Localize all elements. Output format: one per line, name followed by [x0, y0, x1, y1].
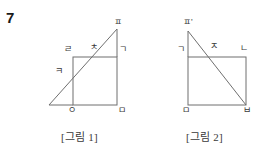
figure-1-caption: [그림 1]: [61, 128, 98, 144]
figure-1-vertex-label-ieung: ㅇ: [68, 106, 76, 115]
figure-1-vertex-label-rieul: ㄹ: [64, 45, 72, 54]
question-figure-page: 7 ㅍ ㄹ ㅊ ㄱ ㅋ ㅇ ㅁ ㅍ' ㄱ ㅈ ㄴ ㅁ ㅂ [그림 1] [그림 …: [0, 0, 269, 153]
figure-2-vertex-label-pieup-prime: ㅍ': [183, 18, 193, 27]
figure-1-square: [73, 57, 117, 105]
figure-2-vertex-label-mieum: ㅁ: [182, 106, 190, 115]
figure-2-vertex-label-bieup: ㅂ: [243, 106, 251, 115]
figure-1-vertex-label-chieut: ㅊ: [90, 43, 98, 52]
figure-1-vertex-label-kieuk: ㅋ: [55, 67, 63, 76]
figure-1-vertex-label-mieum: ㅁ: [118, 106, 126, 115]
geometry-diagrams: [0, 0, 269, 153]
figure-2-vertex-label-giyeok: ㄱ: [177, 45, 185, 54]
figure-1-vertex-label-pieup: ㅍ: [114, 18, 122, 27]
figure-1-vertex-label-giyeok: ㄱ: [119, 45, 127, 54]
figure-2-vertex-label-jieut: ㅈ: [210, 42, 218, 51]
figure-2-caption: [그림 2]: [186, 128, 223, 144]
figure-2-vertex-label-nieun: ㄴ: [240, 44, 248, 53]
figure-2-rectangle: [188, 57, 246, 105]
